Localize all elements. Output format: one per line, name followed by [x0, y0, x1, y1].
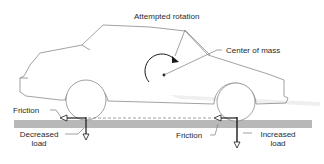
ground-surface: [14, 120, 312, 128]
center-of-mass-label: Center of mass: [226, 46, 280, 55]
increased-load-label: Increased load: [254, 130, 302, 148]
decreased-load-line1: Decreased: [13, 130, 65, 139]
rear-wheel: [66, 80, 106, 120]
rotation-arc: [145, 54, 175, 82]
car-weight-transfer-diagram: Attempted rotation Center of mass Fricti…: [0, 0, 324, 164]
load-arrowhead-icon: [83, 134, 89, 140]
friction-front-label: Friction: [176, 131, 202, 140]
rotation-arrowhead-icon: [172, 56, 179, 63]
decreased-load-label: Decreased load: [13, 130, 65, 148]
front-wheel: [217, 83, 255, 121]
increased-load-line1: Increased: [254, 130, 302, 139]
increased-load-line2: load: [254, 139, 302, 148]
attempted-rotation-label: Attempted rotation: [134, 12, 199, 21]
load-arrowhead-icon: [234, 142, 240, 148]
decreased-load-line2: load: [13, 139, 65, 148]
friction-rear-label: Friction: [13, 106, 39, 115]
